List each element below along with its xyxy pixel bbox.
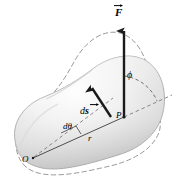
physics-figure-rigid-body-rotation: F d s ϕ P dθ r O <box>0 0 179 187</box>
origin-o-label: O <box>22 155 29 164</box>
radius-r-label: r <box>88 134 92 143</box>
displacement-vector-label: d s <box>80 103 89 116</box>
force-vector-glyph: F <box>115 6 122 18</box>
ds-s-glyph: s <box>85 105 89 116</box>
force-vector-label: F <box>115 4 122 18</box>
vector-arrow-overbar-icon <box>90 103 99 106</box>
point-p-label: P <box>116 111 122 120</box>
angle-phi-label: ϕ <box>127 70 132 80</box>
point-p-dot <box>123 116 126 119</box>
point-o-dot <box>32 157 34 159</box>
angle-dtheta-label: dθ <box>63 122 72 131</box>
vector-arrow-overbar-icon <box>114 4 123 7</box>
rigid-body-shape <box>15 56 165 169</box>
